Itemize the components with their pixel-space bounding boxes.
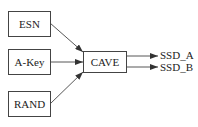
ssd-a-label: SSD_A xyxy=(160,50,194,61)
esn-box: ESN xyxy=(8,11,51,37)
akey-label: A-Key xyxy=(15,56,45,68)
cave-box: CAVE xyxy=(83,51,127,73)
rand-box: RAND xyxy=(8,91,51,117)
edge-esn-cave xyxy=(50,23,83,52)
ssd-b-label: SSD_B xyxy=(160,62,193,73)
cave-label: CAVE xyxy=(91,56,120,68)
edge-rand-cave xyxy=(50,72,83,104)
rand-label: RAND xyxy=(14,98,45,110)
akey-box: A-Key xyxy=(8,49,51,75)
esn-label: ESN xyxy=(19,18,40,30)
